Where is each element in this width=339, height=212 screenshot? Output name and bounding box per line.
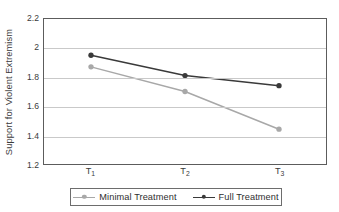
legend-marker-icon [193,193,215,201]
series-layer [44,19,326,164]
gridline [44,48,326,49]
gridline [44,137,326,138]
x-axis-tick-label: T2 [180,167,189,176]
data-point-marker [276,83,281,88]
legend-label: Minimal Treatment [99,192,176,202]
series-line [91,55,279,85]
data-point-marker [88,53,93,58]
plot-area [43,18,327,165]
x-axis-tick-labels: T1T2T3 [43,167,327,183]
data-point-marker [88,64,93,69]
legend-label: Full Treatment [219,192,279,202]
x-axis-tick-label: T1 [86,167,95,176]
legend-marker-icon [73,193,95,201]
chart-legend: Minimal TreatmentFull Treatment [70,188,282,206]
y-axis-tick-label: 1.2 [14,161,39,170]
y-axis-tick-label: 2 [14,43,39,52]
gridline [44,78,326,79]
y-axis-tick-label: 1.6 [14,102,39,111]
line-chart: Support for Violent Extremism 2.221.81.6… [0,0,339,212]
y-axis-tick-label: 1.8 [14,73,39,82]
data-point-marker [182,89,187,94]
data-point-marker [276,127,281,132]
x-axis-tick-label: T3 [275,167,284,176]
y-axis-tick-labels: 2.221.81.61.41.2 [14,0,39,212]
y-axis-tick-label: 1.4 [14,131,39,140]
legend-entry[interactable]: Full Treatment [193,192,279,202]
legend-entry[interactable]: Minimal Treatment [73,192,176,202]
gridline [44,107,326,108]
y-axis-tick-label: 2.2 [14,14,39,23]
